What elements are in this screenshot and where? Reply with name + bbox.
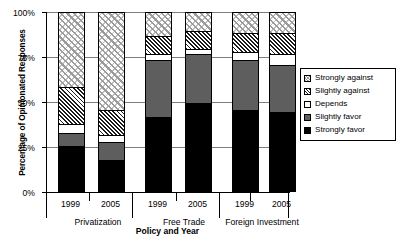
- legend-item[interactable]: Strongly against: [304, 72, 393, 85]
- segment-depends: [186, 49, 211, 54]
- segment-slightly-favor: [186, 54, 211, 103]
- y-tick-label-75: 75%: [18, 53, 35, 63]
- plot-area: 100% 75% 50% 25% 0%: [46, 12, 290, 193]
- x-tick-label-year: 2005: [178, 199, 218, 209]
- bar-free-trade-1999[interactable]: [145, 12, 172, 192]
- bar-foreign-investment-2005[interactable]: [269, 12, 296, 192]
- segment-depends: [146, 54, 171, 59]
- legend-swatch-icon: [304, 101, 311, 108]
- legend-item[interactable]: Strongly favor: [304, 124, 393, 137]
- legend-label: Strongly against: [315, 74, 373, 82]
- x-axis-title: Policy and Year: [46, 226, 289, 236]
- segment-slightly-favor: [233, 60, 258, 110]
- segment-slightly-against: [59, 87, 84, 125]
- bar-foreign-investment-1999[interactable]: [232, 12, 259, 192]
- group-separator: [219, 192, 220, 218]
- segment-slightly-favor: [270, 65, 295, 112]
- y-tick-label-0: 0%: [23, 188, 35, 198]
- legend-item[interactable]: Slightly against: [304, 85, 393, 98]
- segment-slightly-against: [233, 33, 258, 53]
- bar-free-trade-2005[interactable]: [185, 12, 212, 192]
- segment-depends: [99, 135, 124, 142]
- x-tick-label-year: 1999: [225, 199, 265, 209]
- legend-label: Slightly against: [315, 87, 369, 95]
- segment-slightly-favor: [59, 133, 84, 146]
- bars-container: [47, 12, 290, 192]
- segment-strongly-favor: [99, 160, 124, 191]
- segment-strongly-against: [146, 12, 171, 36]
- segment-strongly-against: [233, 12, 258, 33]
- x-tick-label-year: 2005: [91, 199, 131, 209]
- group-separator: [46, 192, 47, 218]
- segment-strongly-against: [270, 12, 295, 33]
- segment-slightly-favor: [99, 142, 124, 160]
- segment-slightly-against: [99, 110, 124, 135]
- legend-label: Strongly favor: [315, 126, 365, 134]
- segment-depends: [59, 124, 84, 133]
- segment-slightly-against: [270, 33, 295, 55]
- segment-slightly-favor: [146, 60, 171, 118]
- segment-strongly-favor: [59, 146, 84, 191]
- y-tick-label-100: 100%: [13, 8, 35, 18]
- y-tick-label-25: 25%: [18, 143, 35, 153]
- legend-label: Slightly favor: [315, 113, 361, 121]
- legend-item[interactable]: Depends: [304, 98, 393, 111]
- segment-depends: [233, 52, 258, 59]
- segment-strongly-against: [186, 12, 211, 31]
- segment-strongly-against: [59, 12, 84, 87]
- segment-slightly-against: [186, 31, 211, 49]
- legend-swatch-icon: [304, 114, 311, 121]
- x-tick-label-year: 1999: [138, 199, 178, 209]
- segment-strongly-favor: [186, 103, 211, 191]
- segment-strongly-favor: [233, 110, 258, 191]
- segment-slightly-against: [146, 36, 171, 54]
- legend-swatch-icon: [304, 127, 311, 134]
- bar-privatization-1999[interactable]: [58, 12, 85, 192]
- legend-item[interactable]: Slightly favor: [304, 111, 393, 124]
- segment-strongly-favor: [270, 112, 295, 191]
- legend-swatch-icon: [304, 75, 311, 82]
- group-separator: [132, 192, 133, 218]
- segment-strongly-favor: [146, 117, 171, 191]
- bar-privatization-2005[interactable]: [98, 12, 125, 192]
- legend: Strongly againstSlightly againstDependsS…: [300, 68, 396, 141]
- x-tick-label-year: 1999: [51, 199, 91, 209]
- x-tick-label-year: 2005: [262, 199, 302, 209]
- segment-strongly-against: [99, 12, 124, 110]
- y-tick-label-50: 50%: [18, 98, 35, 108]
- stacked-bar-chart: Percentage of Opinionated Responses 100%…: [0, 0, 401, 249]
- legend-swatch-icon: [304, 88, 311, 95]
- segment-depends: [270, 54, 295, 65]
- legend-label: Depends: [315, 100, 347, 108]
